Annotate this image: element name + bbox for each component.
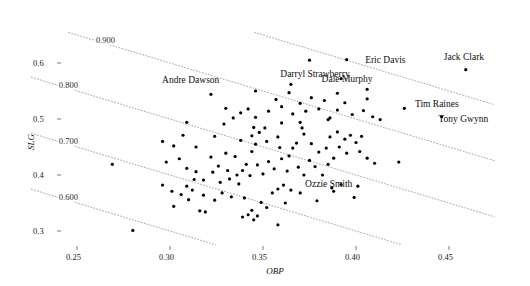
data-point [241,215,244,218]
iso-ops-line-label: 0.700 [58,136,79,146]
data-point [289,83,292,86]
data-point [185,121,188,124]
data-point [280,121,283,124]
data-point [217,164,220,167]
data-point [299,191,302,194]
data-point [308,59,311,62]
data-point [327,118,330,121]
data-point [204,210,207,213]
data-point [278,146,281,149]
data-point [235,173,238,176]
data-point [358,150,361,153]
player-annotation-label: Ozzie Smith [305,179,352,189]
data-point [315,199,318,202]
data-point [265,140,268,143]
y-tick-label: 0.4 [33,170,44,180]
y-tick-label: 0.3 [33,226,44,236]
data-point [280,105,283,108]
labeled-data-point [366,97,369,100]
data-point [194,145,197,148]
data-point [291,147,294,150]
data-point [241,169,244,172]
data-point [297,166,300,169]
data-point [310,142,313,145]
data-point [343,101,346,104]
data-point [219,181,222,184]
data-point [245,163,248,166]
labeled-data-point [464,68,467,71]
data-point [250,150,253,153]
data-point [338,145,341,148]
data-point [397,161,400,164]
data-point [248,174,251,177]
data-point [185,185,188,188]
data-point [256,163,259,166]
data-point [239,111,242,114]
data-point [260,201,263,204]
data-point [172,144,175,147]
iso-ops-line [31,133,401,244]
data-point [250,134,253,137]
data-point [193,178,196,181]
data-point [254,143,257,146]
data-point [286,169,289,172]
data-point [276,135,279,138]
data-point [187,198,190,201]
data-point [321,173,324,176]
data-point [354,141,357,144]
data-point [282,183,285,186]
data-point [274,98,277,101]
data-point [252,126,255,129]
data-point [209,93,212,96]
data-point [213,199,216,202]
data-point [276,223,279,226]
data-point [308,159,311,162]
data-point [250,209,253,212]
data-point [343,138,346,141]
data-point [267,160,270,163]
x-tick-label: 0.40 [345,252,360,262]
iso-ops-reference-lines [31,32,494,244]
data-point [234,155,237,158]
data-point [191,189,194,192]
data-point [111,163,114,166]
x-tick-label: 0.25 [66,252,81,262]
x-tick-label: 0.45 [438,252,453,262]
data-point [332,157,335,160]
data-point [211,171,214,174]
data-point [360,135,363,138]
data-point [302,173,305,176]
data-point [222,122,225,125]
data-point [271,191,274,194]
iso-ops-line-label: 0.800 [58,80,79,90]
data-point [265,206,268,209]
player-annotation-label: Andre Dawson [162,75,219,85]
data-point [237,182,240,185]
data-point [287,91,290,94]
data-point [258,131,261,134]
data-point [224,152,227,155]
player-annotation-label: Eric Davis [365,55,405,65]
labeled-data-point [336,92,339,95]
data-point [178,157,181,160]
data-point [230,195,233,198]
data-point [224,107,227,110]
data-point [304,110,307,113]
labeled-data-point [332,190,335,193]
data-point [356,185,359,188]
data-point [261,172,264,175]
data-point [209,155,212,158]
data-point [336,108,339,111]
data-point [366,88,369,91]
data-point [254,116,257,119]
player-annotation-label: Tony Gwynn [438,114,488,124]
player-annotation-label: Dale Murphy [322,74,373,84]
data-point [243,196,246,199]
labeled-data-point [254,89,257,92]
data-point [379,118,382,121]
data-point [349,134,352,137]
x-tick-label: 0.30 [159,252,174,262]
axis-tick-marks [57,63,449,250]
data-point [181,134,184,137]
data-point [353,196,356,199]
